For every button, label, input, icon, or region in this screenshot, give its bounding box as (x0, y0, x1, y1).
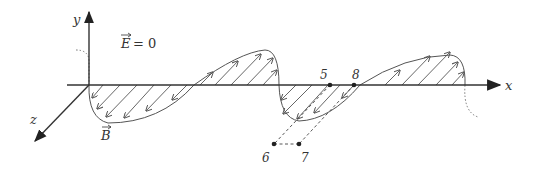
point-7 (297, 142, 302, 147)
point-5 (328, 83, 333, 88)
point-5-label: 5 (320, 68, 328, 82)
point-7-label: 7 (301, 151, 309, 165)
point-6-label: 6 (262, 151, 270, 165)
z-axis (35, 85, 89, 141)
x-axis-label: x (505, 78, 513, 93)
b-field-vectors-lobe2 (200, 54, 277, 85)
b-field-wave-envelope (89, 50, 465, 123)
y-axis-label: y (72, 12, 81, 27)
construction-lines (274, 85, 354, 144)
point-8 (352, 83, 357, 88)
point-6 (272, 142, 277, 147)
z-axis-label: z (29, 112, 37, 127)
b-field-vectors-lobe4 (385, 52, 464, 85)
e-field-annotation: E = 0 (120, 33, 156, 51)
e-symbol: E (120, 36, 131, 51)
wave-tail-left (76, 50, 89, 84)
points (272, 83, 357, 147)
point-8-label: 8 (352, 68, 360, 82)
wave-tail-right (465, 85, 478, 117)
em-wave-diagram: y x z E = 0 B 5 8 6 7 (0, 0, 534, 174)
b-symbol: B (100, 128, 111, 143)
b-field-annotation: B (100, 125, 111, 143)
b-field-vectors-lobe1 (92, 85, 187, 118)
e-value: = 0 (133, 36, 156, 51)
